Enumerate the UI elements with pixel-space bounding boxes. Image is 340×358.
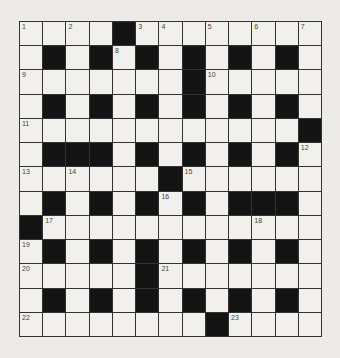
crossword-cell[interactable]: [229, 119, 251, 142]
crossword-cell[interactable]: [206, 216, 228, 239]
crossword-cell[interactable]: [206, 119, 228, 142]
crossword-cell[interactable]: [183, 119, 205, 142]
crossword-cell[interactable]: 3: [136, 22, 158, 45]
crossword-cell[interactable]: [136, 167, 158, 190]
crossword-cell[interactable]: [113, 264, 135, 287]
crossword-cell[interactable]: 2: [66, 22, 88, 45]
crossword-cell[interactable]: [299, 167, 321, 190]
crossword-cell[interactable]: [299, 289, 321, 312]
crossword-cell[interactable]: [276, 313, 298, 336]
crossword-cell[interactable]: [229, 70, 251, 93]
crossword-cell[interactable]: [252, 313, 274, 336]
crossword-cell[interactable]: [90, 119, 112, 142]
crossword-cell[interactable]: [159, 289, 181, 312]
crossword-cell[interactable]: [159, 46, 181, 69]
crossword-cell[interactable]: [229, 264, 251, 287]
crossword-cell[interactable]: [299, 240, 321, 263]
crossword-cell[interactable]: [159, 119, 181, 142]
crossword-cell[interactable]: [90, 264, 112, 287]
crossword-cell[interactable]: [90, 313, 112, 336]
crossword-cell[interactable]: [183, 313, 205, 336]
crossword-cell[interactable]: [90, 22, 112, 45]
crossword-cell[interactable]: [66, 95, 88, 118]
crossword-cell[interactable]: [299, 264, 321, 287]
crossword-cell[interactable]: 19: [20, 240, 42, 263]
crossword-cell[interactable]: 7: [299, 22, 321, 45]
crossword-cell[interactable]: [43, 70, 65, 93]
crossword-cell[interactable]: [276, 70, 298, 93]
crossword-cell[interactable]: 17: [43, 216, 65, 239]
crossword-cell[interactable]: [20, 46, 42, 69]
crossword-cell[interactable]: 8: [113, 46, 135, 69]
crossword-cell[interactable]: [252, 95, 274, 118]
crossword-cell[interactable]: [66, 313, 88, 336]
crossword-cell[interactable]: 1: [20, 22, 42, 45]
crossword-cell[interactable]: [206, 192, 228, 215]
crossword-cell[interactable]: 13: [20, 167, 42, 190]
crossword-cell[interactable]: [159, 70, 181, 93]
crossword-cell[interactable]: 22: [20, 313, 42, 336]
crossword-cell[interactable]: [276, 167, 298, 190]
crossword-cell[interactable]: [43, 119, 65, 142]
crossword-cell[interactable]: [252, 70, 274, 93]
crossword-cell[interactable]: [159, 95, 181, 118]
crossword-cell[interactable]: 21: [159, 264, 181, 287]
crossword-cell[interactable]: [159, 313, 181, 336]
crossword-cell[interactable]: [252, 167, 274, 190]
crossword-cell[interactable]: [66, 264, 88, 287]
crossword-cell[interactable]: [113, 240, 135, 263]
crossword-cell[interactable]: [136, 119, 158, 142]
crossword-cell[interactable]: [299, 46, 321, 69]
crossword-cell[interactable]: [229, 216, 251, 239]
crossword-cell[interactable]: [252, 240, 274, 263]
crossword-cell[interactable]: [43, 22, 65, 45]
crossword-cell[interactable]: [66, 216, 88, 239]
crossword-cell[interactable]: 12: [299, 143, 321, 166]
crossword-cell[interactable]: 6: [252, 22, 274, 45]
crossword-cell[interactable]: [136, 216, 158, 239]
crossword-cell[interactable]: [43, 264, 65, 287]
crossword-cell[interactable]: [299, 216, 321, 239]
crossword-cell[interactable]: [159, 143, 181, 166]
crossword-cell[interactable]: 9: [20, 70, 42, 93]
crossword-cell[interactable]: [113, 216, 135, 239]
crossword-cell[interactable]: [66, 70, 88, 93]
crossword-cell[interactable]: 16: [159, 192, 181, 215]
crossword-cell[interactable]: [183, 216, 205, 239]
crossword-cell[interactable]: [43, 313, 65, 336]
crossword-cell[interactable]: [113, 313, 135, 336]
crossword-cell[interactable]: [113, 70, 135, 93]
crossword-cell[interactable]: [113, 95, 135, 118]
crossword-cell[interactable]: [66, 289, 88, 312]
crossword-cell[interactable]: [113, 289, 135, 312]
crossword-cell[interactable]: 18: [252, 216, 274, 239]
crossword-cell[interactable]: [252, 143, 274, 166]
crossword-cell[interactable]: [66, 192, 88, 215]
crossword-cell[interactable]: [229, 22, 251, 45]
crossword-cell[interactable]: [20, 289, 42, 312]
crossword-cell[interactable]: [183, 264, 205, 287]
crossword-cell[interactable]: [113, 167, 135, 190]
crossword-cell[interactable]: 20: [20, 264, 42, 287]
crossword-cell[interactable]: [90, 70, 112, 93]
crossword-cell[interactable]: [276, 264, 298, 287]
crossword-cell[interactable]: 11: [20, 119, 42, 142]
crossword-cell[interactable]: [159, 216, 181, 239]
crossword-cell[interactable]: 23: [229, 313, 251, 336]
crossword-cell[interactable]: [206, 95, 228, 118]
crossword-cell[interactable]: [136, 313, 158, 336]
crossword-cell[interactable]: [299, 70, 321, 93]
crossword-cell[interactable]: [66, 119, 88, 142]
crossword-cell[interactable]: [206, 264, 228, 287]
crossword-cell[interactable]: [43, 167, 65, 190]
crossword-cell[interactable]: [252, 264, 274, 287]
crossword-cell[interactable]: [276, 119, 298, 142]
crossword-cell[interactable]: 5: [206, 22, 228, 45]
crossword-cell[interactable]: [183, 22, 205, 45]
crossword-cell[interactable]: [299, 192, 321, 215]
crossword-cell[interactable]: 14: [66, 167, 88, 190]
crossword-cell[interactable]: [252, 119, 274, 142]
crossword-cell[interactable]: [66, 240, 88, 263]
crossword-cell[interactable]: [113, 119, 135, 142]
crossword-cell[interactable]: 15: [183, 167, 205, 190]
